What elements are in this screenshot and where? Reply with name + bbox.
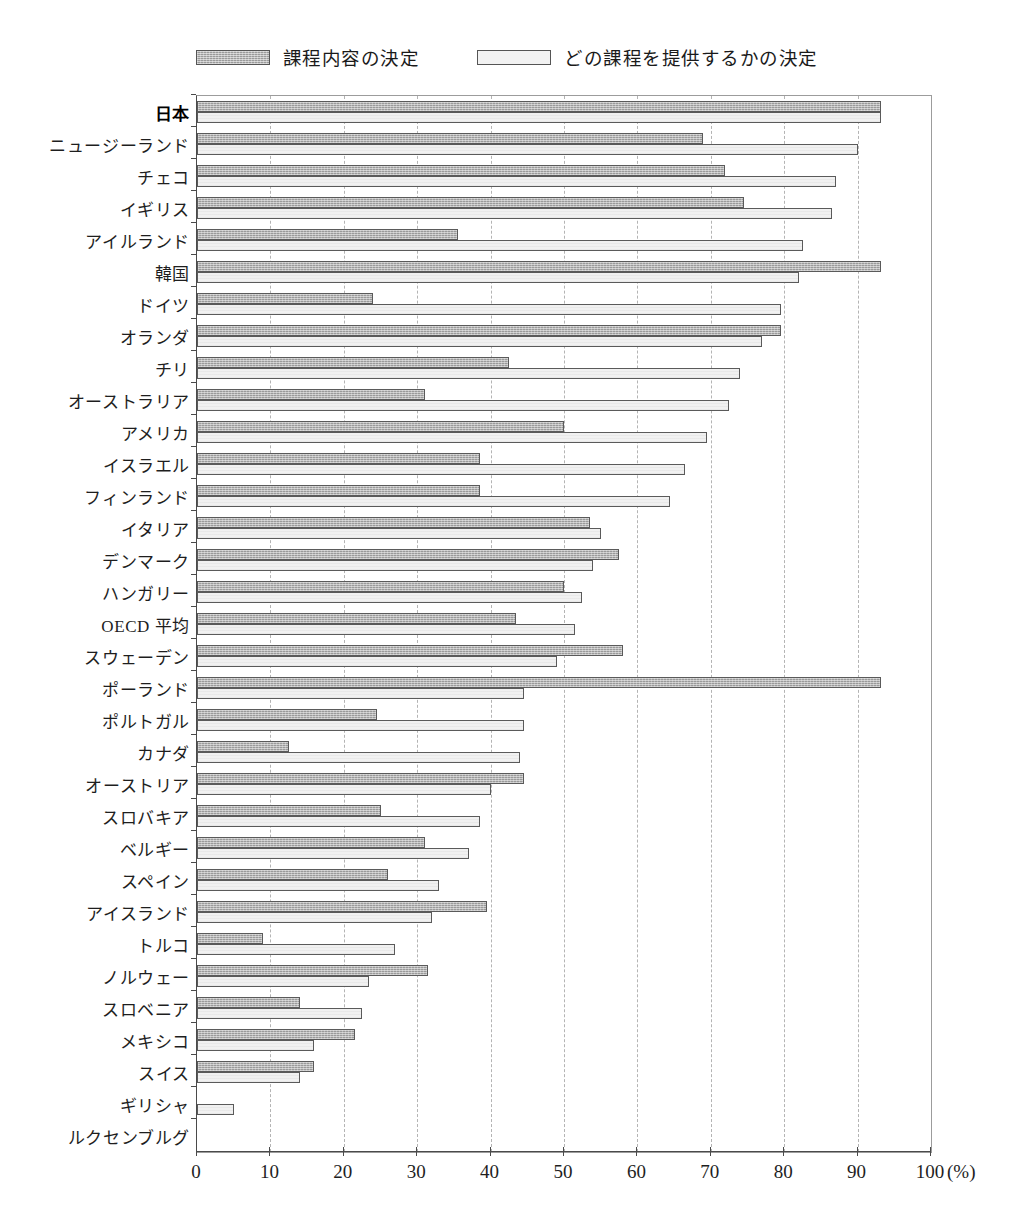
category-tick <box>191 446 196 447</box>
x-tick-label: 80 <box>774 1161 793 1183</box>
bar-light <box>197 880 439 891</box>
x-tick-label: 70 <box>700 1161 719 1183</box>
category-label: オランダ <box>0 324 190 349</box>
category-tick <box>191 158 196 159</box>
category-tick <box>191 926 196 927</box>
category-label: スロベニア <box>0 996 190 1021</box>
bar-light <box>197 144 858 155</box>
bar-dark <box>197 709 377 720</box>
bar-light <box>197 464 685 475</box>
bar-row <box>197 229 931 251</box>
dark-hatched-swatch <box>196 50 270 65</box>
x-tick <box>343 1147 344 1156</box>
bar-dark <box>197 165 725 176</box>
bar-dark <box>197 101 881 112</box>
bar-light <box>197 752 520 763</box>
bar-dark <box>197 517 590 528</box>
category-tick <box>191 1022 196 1023</box>
category-tick <box>191 798 196 799</box>
bar-light <box>197 400 729 411</box>
bar-dark <box>197 805 381 816</box>
x-tick <box>710 1147 711 1156</box>
legend-label: 課程内容の決定 <box>283 44 420 70</box>
category-tick <box>191 574 196 575</box>
bar-light <box>197 848 469 859</box>
category-label: ギリシャ <box>0 1092 190 1117</box>
category-label: チェコ <box>0 164 190 189</box>
bar-dark <box>197 389 425 400</box>
bar-dark <box>197 229 458 240</box>
bar-row <box>197 1093 931 1115</box>
bar-dark <box>197 997 300 1008</box>
bar-light <box>197 688 524 699</box>
bar-light <box>197 176 836 187</box>
bar-row <box>197 293 931 315</box>
bar-row <box>197 997 931 1019</box>
category-label: カナダ <box>0 740 190 765</box>
category-label: デンマーク <box>0 548 190 573</box>
bar-row <box>197 613 931 635</box>
category-tick <box>191 542 196 543</box>
category-label: イタリア <box>0 516 190 541</box>
bar-row <box>197 869 931 891</box>
category-label: メキシコ <box>0 1028 190 1053</box>
bar-light <box>197 560 593 571</box>
bar-dark <box>197 293 373 304</box>
bar-row <box>197 581 931 603</box>
category-tick <box>191 94 196 95</box>
bar-light <box>197 784 491 795</box>
bar-light <box>197 368 740 379</box>
bar-dark <box>197 1029 355 1040</box>
x-tick <box>416 1147 417 1156</box>
bar-row <box>197 805 931 827</box>
legend-label: どの課程を提供するかの決定 <box>564 44 818 70</box>
bar-row <box>197 709 931 731</box>
chart-legend: 課程内容の決定どの課程を提供するかの決定 <box>0 44 1013 70</box>
bar-row <box>197 517 931 539</box>
bar-light <box>197 1072 300 1083</box>
category-tick <box>191 670 196 671</box>
bar-dark <box>197 485 480 496</box>
bar-dark <box>197 645 623 656</box>
bar-light <box>197 1008 362 1019</box>
bar-light <box>197 208 832 219</box>
category-tick <box>191 126 196 127</box>
category-label: チリ <box>0 356 190 381</box>
bar-light <box>197 304 781 315</box>
bar-row <box>197 165 931 187</box>
bar-row <box>197 1029 931 1051</box>
category-tick <box>191 894 196 895</box>
bar-light <box>197 528 601 539</box>
bar-row <box>197 453 931 475</box>
bar-row <box>197 773 931 795</box>
category-label: スウェーデン <box>0 644 190 669</box>
category-label: ベルギー <box>0 836 190 861</box>
bar-light <box>197 816 480 827</box>
category-label: イギリス <box>0 196 190 221</box>
bar-row <box>197 1061 931 1083</box>
x-tick <box>783 1147 784 1156</box>
bar-row <box>197 325 931 347</box>
category-label: 日本 <box>0 100 190 125</box>
x-tick <box>636 1147 637 1156</box>
bar-dark <box>197 933 263 944</box>
category-label: アイルランド <box>0 228 190 253</box>
bar-light <box>197 496 670 507</box>
x-tick-label: 40 <box>480 1161 499 1183</box>
bar-row <box>197 933 931 955</box>
bar-dark <box>197 197 744 208</box>
bar-light <box>197 1040 314 1051</box>
category-tick <box>191 286 196 287</box>
bar-dark <box>197 869 388 880</box>
category-label: スロバキア <box>0 804 190 829</box>
x-tick <box>490 1147 491 1156</box>
bar-light <box>197 944 395 955</box>
category-label: スイス <box>0 1060 190 1085</box>
bar-dark <box>197 741 289 752</box>
x-tick <box>196 1147 197 1156</box>
x-tick-label: 100 <box>916 1161 945 1183</box>
category-tick <box>191 222 196 223</box>
bar-dark <box>197 453 480 464</box>
bar-light <box>197 112 881 123</box>
bar-row <box>197 421 931 443</box>
